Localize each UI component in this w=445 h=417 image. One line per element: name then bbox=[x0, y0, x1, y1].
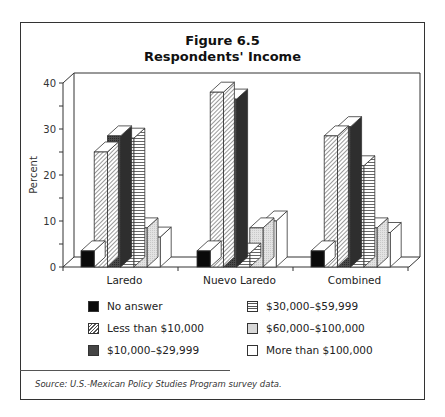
source-note: Source: U.S.-Mexican Policy Studies Prog… bbox=[35, 379, 282, 389]
svg-text:30: 30 bbox=[43, 124, 56, 135]
svg-text:Percent: Percent bbox=[28, 156, 39, 194]
svg-text:0: 0 bbox=[50, 262, 56, 273]
legend-label: Less than $10,000 bbox=[107, 322, 204, 334]
legend-swatch-icon bbox=[247, 301, 258, 312]
legend-label: No answer bbox=[107, 300, 163, 312]
legend-item-10000-29999: $10,000–$29,999 bbox=[88, 344, 199, 356]
legend-swatch-icon bbox=[88, 345, 99, 356]
legend-label: $30,000–$59,999 bbox=[266, 300, 358, 312]
legend-item-no-answer: No answer bbox=[88, 300, 163, 312]
legend-item-more-than-100000: More than $100,000 bbox=[247, 344, 373, 356]
source-divider bbox=[20, 370, 230, 371]
chart-bars bbox=[81, 82, 401, 267]
svg-text:40: 40 bbox=[43, 78, 56, 89]
svg-text:Nuevo Laredo: Nuevo Laredo bbox=[203, 274, 276, 286]
legend-label: $10,000–$29,999 bbox=[107, 344, 199, 356]
svg-text:Combined: Combined bbox=[328, 274, 381, 286]
svg-text:Laredo: Laredo bbox=[107, 274, 143, 286]
legend-item-60000-100000: $60,000–$100,000 bbox=[247, 322, 365, 334]
legend-swatch-icon bbox=[247, 345, 258, 356]
legend-item-less-than-10000: Less than $10,000 bbox=[88, 322, 204, 334]
legend-swatch-icon bbox=[247, 323, 258, 334]
legend-item-30000-59999: $30,000–$59,999 bbox=[247, 300, 358, 312]
legend-swatch-icon bbox=[88, 323, 99, 334]
svg-text:20: 20 bbox=[43, 170, 56, 181]
legend-swatch-icon bbox=[88, 301, 99, 312]
legend-label: More than $100,000 bbox=[266, 344, 373, 356]
legend-label: $60,000–$100,000 bbox=[266, 322, 365, 334]
svg-text:10: 10 bbox=[43, 216, 56, 227]
bar-chart: 010203040PercentLaredoNuevo LaredoCombin… bbox=[0, 0, 445, 300]
